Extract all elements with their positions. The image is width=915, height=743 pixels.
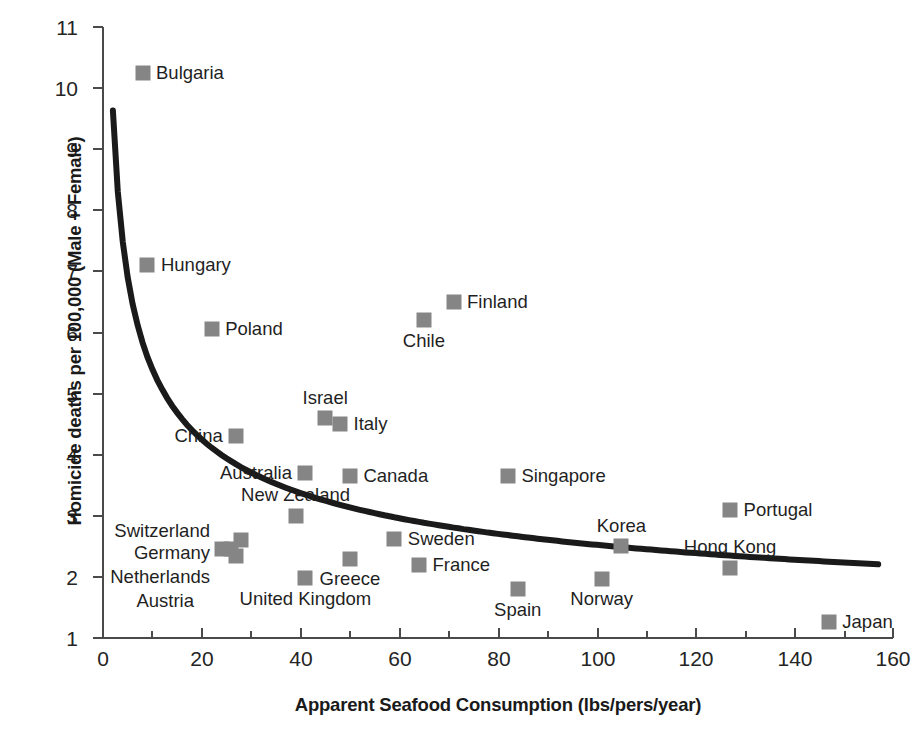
data-point-label: Australia bbox=[220, 464, 292, 483]
data-point-marker bbox=[416, 313, 431, 328]
data-point-marker bbox=[342, 551, 357, 566]
x-tick-label: 80 bbox=[469, 648, 529, 669]
data-point-label: Canada bbox=[363, 467, 428, 486]
data-point-marker bbox=[446, 294, 461, 309]
data-point-label: Japan bbox=[842, 612, 892, 631]
data-point-marker bbox=[500, 469, 515, 484]
x-tick-label: 120 bbox=[666, 648, 726, 669]
x-tick-label: 20 bbox=[172, 648, 232, 669]
data-point-label: Spain bbox=[494, 600, 541, 619]
x-tick-label: 40 bbox=[271, 648, 331, 669]
data-point-label: United Kingdom bbox=[240, 589, 372, 608]
data-point-label: Germany bbox=[134, 544, 210, 563]
x-axis-title: Apparent Seafood Consumption (lbs/pers/y… bbox=[103, 694, 893, 716]
data-point-marker bbox=[298, 466, 313, 481]
data-point-label: Chile bbox=[403, 332, 445, 351]
y-axis-title: Homicide deaths per 100,000 (Male + Fema… bbox=[64, 21, 86, 641]
data-point-marker bbox=[214, 542, 229, 557]
data-point-label: Finland bbox=[467, 293, 528, 312]
data-point-label: New Zealand bbox=[241, 486, 350, 505]
data-point-marker bbox=[387, 532, 402, 547]
data-point-marker bbox=[333, 417, 348, 432]
data-point-marker bbox=[510, 582, 525, 597]
data-point-marker bbox=[229, 548, 244, 563]
data-point-marker bbox=[135, 65, 150, 80]
data-point-marker bbox=[229, 429, 244, 444]
data-point-label: Singapore bbox=[521, 467, 605, 486]
data-point-marker bbox=[821, 614, 836, 629]
data-point-marker bbox=[288, 508, 303, 523]
y-tick-marks bbox=[93, 27, 103, 638]
data-point-marker bbox=[412, 557, 427, 572]
data-point-label: Austria bbox=[136, 592, 194, 611]
data-point-label: Hong Kong bbox=[684, 538, 777, 557]
data-point-label: Switzerland bbox=[114, 522, 210, 541]
x-tick-label: 160 bbox=[863, 648, 915, 669]
data-point-label: Sweden bbox=[408, 530, 475, 549]
data-point-label: Netherlands bbox=[110, 568, 210, 587]
data-point-marker bbox=[140, 258, 155, 273]
x-tick-label: 140 bbox=[765, 648, 825, 669]
data-point-label: Greece bbox=[320, 570, 381, 589]
data-point-label: Poland bbox=[225, 320, 283, 339]
data-point-label: China bbox=[174, 427, 222, 446]
data-point-marker bbox=[723, 560, 738, 575]
data-point-marker bbox=[318, 411, 333, 426]
data-point-label: Italy bbox=[354, 415, 388, 434]
data-point-marker bbox=[342, 469, 357, 484]
data-point-label: Korea bbox=[597, 517, 646, 536]
data-point-marker bbox=[204, 322, 219, 337]
data-point-label: Portugal bbox=[744, 500, 813, 519]
data-point-label: Norway bbox=[570, 590, 633, 609]
x-tick-label: 100 bbox=[568, 648, 628, 669]
data-point-marker bbox=[723, 502, 738, 517]
data-point-marker bbox=[298, 571, 313, 586]
data-point-marker bbox=[594, 571, 609, 586]
data-point-label: Bulgaria bbox=[156, 64, 224, 83]
x-tick-marks bbox=[103, 628, 893, 638]
x-tick-label: 60 bbox=[370, 648, 430, 669]
data-point-label: Hungary bbox=[161, 256, 231, 275]
data-point-label: Israel bbox=[303, 388, 348, 407]
data-point-marker bbox=[614, 539, 629, 554]
data-point-label: France bbox=[433, 555, 491, 574]
x-tick-label: 0 bbox=[73, 648, 133, 669]
